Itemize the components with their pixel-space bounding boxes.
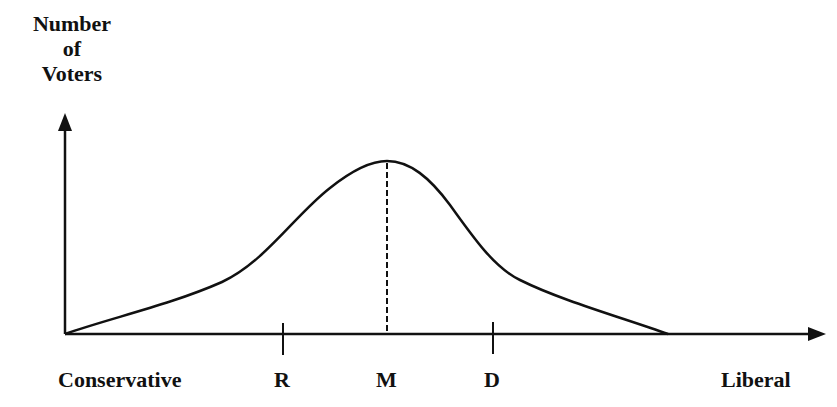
y-axis-label: Number of Voters [22, 11, 122, 86]
diagram-canvas: Number of Voters Conservative R M D Libe… [0, 0, 837, 407]
y-axis-label-line-3: Voters [22, 61, 122, 86]
x-axis-right-label: Liberal [721, 369, 791, 391]
marker-r-label: R [274, 369, 290, 391]
voter-distribution-curve [65, 161, 668, 334]
y-axis-label-line-1: Number [22, 11, 122, 36]
x-axis-arrow-icon [808, 327, 826, 341]
y-axis-label-line-2: of [22, 36, 122, 61]
y-axis-arrow-icon [58, 113, 72, 131]
diagram-svg [0, 0, 837, 407]
x-axis-left-label: Conservative [58, 369, 181, 391]
marker-m-label: M [376, 369, 397, 391]
marker-d-label: D [484, 369, 500, 391]
